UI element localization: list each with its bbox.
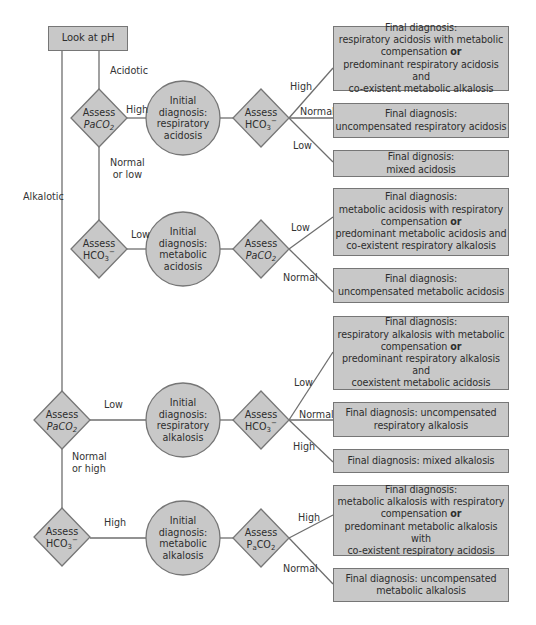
final-diagnosis-mixed-acidosis: Final dignosis: mixed acidosis — [333, 150, 509, 177]
initial-diagnosis-resp-alkalosis: Initial diagnosis: respiratory alkalosis — [157, 397, 209, 443]
decision-met-acid-paco2-line2: PaCO2 — [245, 249, 277, 261]
initial-diagnosis-line: diagnosis: — [157, 409, 209, 421]
final-diagnosis-line: co-existent respiratory alkalosis — [346, 240, 496, 252]
edge-label-mal-normal: Normal — [283, 563, 318, 575]
connector-ma-normal — [289, 249, 333, 292]
branch-label-acidotic: Acidotic — [110, 65, 148, 77]
final-diagnosis-resp-alkalosis-compensated: Final diagnosis: respiratory alkalosis w… — [333, 316, 509, 390]
decision-met-acid-paco2-line1: Assess — [245, 238, 277, 250]
initial-diagnosis-line: metabolic — [159, 249, 208, 261]
initial-diagnosis-line: alkalosis — [157, 432, 209, 444]
initial-diagnosis-met-acidosis: Initial diagnosis: metabolic acidosis — [159, 226, 208, 272]
final-diagnosis-line: compensation or — [381, 508, 462, 520]
decision-resp-alk-hco3-text: Assess HCO3− — [245, 409, 277, 432]
final-diagnosis-line: Final dignosis: — [388, 151, 454, 163]
start-box: Look at pH — [48, 26, 128, 51]
initial-diagnosis-line: diagnosis: — [159, 238, 208, 250]
decision-acid-paco2-text: Assess PaCO2 — [83, 107, 115, 130]
final-diagnosis-mixed-alkalosis: Final diagnosis: mixed alkalosis — [333, 449, 509, 473]
branch-label-normal-or-low-line1: Normal — [110, 157, 145, 169]
edge-label-ma-low: Low — [291, 222, 310, 234]
final-diagnosis-line: respiratory acidosis with metabolic — [339, 34, 503, 46]
edge-label-ra-high: High — [290, 81, 312, 93]
decision-met-acid-paco2-text: Assess PaCO2 — [245, 238, 277, 261]
edge-label-ral-high: High — [293, 441, 315, 453]
decision-acid-hco3-text: Assess HCO3− — [83, 238, 115, 261]
decision-alk-hco3-text: Assess HCO3− — [46, 526, 78, 549]
edge-label-ra-normal: Normal — [300, 106, 335, 118]
final-diagnosis-line: compensation or — [381, 341, 462, 353]
branch-label-normal-or-low-line2: or low — [110, 169, 145, 181]
final-diagnosis-line: co-existent respiratory acidosis — [347, 545, 494, 557]
final-diagnosis-line: metabolic alkalosis with respiratory — [338, 496, 505, 508]
final-diagnosis-line: mixed acidosis — [386, 164, 455, 176]
initial-diagnosis-line: acidosis — [159, 261, 208, 273]
initial-diagnosis-line: diagnosis: — [159, 527, 208, 539]
final-diagnosis-line: uncompensated metabolic acidosis — [338, 286, 504, 298]
decision-acid-paco2-line1: Assess — [83, 107, 115, 119]
final-diagnosis-line: compensation or — [381, 216, 462, 228]
final-diagnosis-line: predominant respiratory alkalosis and — [334, 353, 508, 377]
final-diagnosis-uncompensated-resp-alkalosis: Final diagnosis: uncompensated respirato… — [333, 402, 509, 437]
edge-label-alk-paco2-low: Low — [104, 399, 123, 411]
edge-label-ra-low: Low — [293, 140, 312, 152]
decision-resp-acid-hco3-line2: HCO3− — [245, 118, 277, 130]
final-diagnosis-line: uncompensated respiratory acidosis — [336, 121, 507, 133]
final-diagnosis-line: metabolic alkalosis — [376, 585, 466, 597]
decision-alk-paco2-line1: Assess — [46, 409, 78, 421]
final-diagnosis-met-acidosis-compensated: Final diagnosis: metabolic acidosis with… — [333, 188, 509, 256]
decision-met-alk-paco2-line2: PaCO2 — [245, 538, 277, 550]
decision-resp-alk-hco3-line2: HCO3− — [245, 420, 277, 432]
initial-diagnosis-line: Initial — [159, 226, 208, 238]
final-diagnosis-line: Final diagnosis: — [385, 484, 457, 496]
final-diagnosis-line: Final diagnosis: uncompensated — [345, 407, 496, 419]
edge-label-alk-hco3-high: High — [104, 517, 126, 529]
final-diagnosis-line: Final diagnosis: — [385, 273, 457, 285]
decision-acid-paco2-line2: PaCO2 — [83, 118, 115, 130]
decision-alk-paco2-text: Assess PaCO2 — [46, 409, 78, 432]
branch-label-normal-or-high-line2: or high — [72, 463, 107, 475]
decision-acid-hco3-line2: HCO3− — [83, 249, 115, 261]
edge-label-ma-normal: Normal — [283, 272, 318, 284]
decision-met-alk-paco2-line1: Assess — [245, 527, 277, 539]
final-diagnosis-line: predominant metabolic acidosis and — [335, 228, 506, 240]
final-diagnosis-line: co-existent metabolic alkalosis — [349, 83, 494, 95]
initial-diagnosis-line: Initial — [157, 95, 209, 107]
final-diagnosis-line: Final diagnosis: uncompensated — [345, 573, 496, 585]
final-diagnosis-uncompensated-met-acidosis: Final diagnosis: uncompensated metabolic… — [333, 268, 509, 303]
final-diagnosis-line: Final diagnosis: — [385, 316, 457, 328]
branch-label-normal-or-high: Normal or high — [72, 451, 107, 474]
final-diagnosis-line: compensation or — [381, 46, 462, 58]
initial-diagnosis-line: acidosis — [157, 130, 209, 142]
final-diagnosis-line: predominant metabolic alkalosis with — [334, 521, 508, 545]
edge-label-ral-low: Low — [294, 377, 313, 389]
final-diagnosis-line: metabolic acidosis with respiratory — [339, 204, 503, 216]
final-diagnosis-uncompensated-resp-acidosis: Final diagnosis: uncompensated respirato… — [333, 103, 509, 138]
branch-label-normal-or-high-line1: Normal — [72, 451, 107, 463]
final-diagnosis-line: Final diagnosis: — [385, 191, 457, 203]
final-diagnosis-line: predominant respiratory acidosis and — [334, 59, 508, 83]
final-diagnosis-line: Final diagnosis: — [385, 108, 457, 120]
connector-mal-normal — [289, 538, 333, 584]
branch-label-normal-or-low: Normal or low — [110, 157, 145, 180]
initial-diagnosis-line: respiratory — [157, 420, 209, 432]
final-diagnosis-line: Final diagnosis: mixed alkalosis — [347, 455, 494, 467]
initial-diagnosis-resp-acidosis: Initial diagnosis: respiratory acidosis — [157, 95, 209, 141]
initial-diagnosis-line: diagnosis: — [157, 107, 209, 119]
final-diagnosis-uncompensated-met-alkalosis: Final diagnosis: uncompensated metabolic… — [333, 568, 509, 602]
initial-diagnosis-line: Initial — [157, 397, 209, 409]
branch-label-alkalotic: Alkalotic — [23, 191, 64, 203]
final-diagnosis-line: respiratory alkalosis — [374, 420, 468, 432]
edge-label-acid-hco3-low: Low — [131, 229, 150, 241]
final-diagnosis-line: respiratory alkalosis with metabolic — [338, 329, 505, 341]
initial-diagnosis-line: alkalosis — [159, 550, 208, 562]
decision-alk-hco3-line2: HCO3− — [46, 537, 78, 549]
final-diagnosis-met-alkalosis-compensated: Final diagnosis: metabolic alkalosis wit… — [333, 485, 509, 556]
final-diagnosis-line: Final diagnosis: — [385, 22, 457, 34]
initial-diagnosis-line: respiratory — [157, 118, 209, 130]
decision-resp-acid-hco3-text: Assess HCO3− — [245, 107, 277, 130]
final-diagnosis-line: coexistent metabolic acidosis — [352, 377, 491, 389]
initial-diagnosis-line: metabolic — [159, 538, 208, 550]
initial-diagnosis-line: Initial — [159, 515, 208, 527]
decision-alk-paco2-line2: PaCO2 — [46, 420, 78, 432]
